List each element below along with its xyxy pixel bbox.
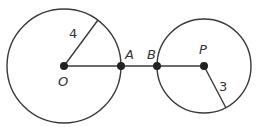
- point-a: [117, 62, 125, 70]
- point-o: [60, 62, 68, 70]
- two-circles-diagram: O A B P 4 3: [0, 0, 257, 127]
- label-o: O: [58, 74, 68, 89]
- label-radius-3: 3: [219, 79, 227, 94]
- label-a: A: [124, 47, 134, 62]
- point-b: [153, 62, 161, 70]
- label-b: B: [147, 47, 156, 62]
- point-p: [200, 62, 208, 70]
- label-radius-4: 4: [69, 26, 77, 41]
- label-p: P: [199, 42, 207, 57]
